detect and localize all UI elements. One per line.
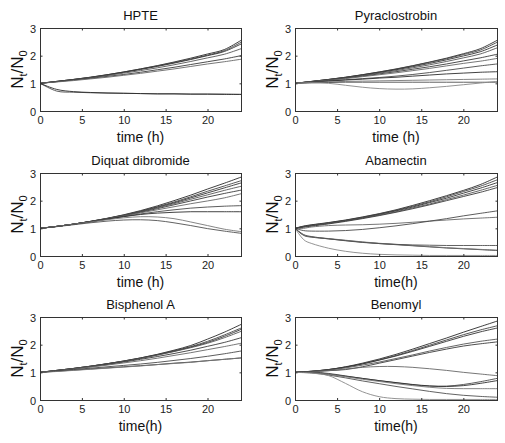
chart-panel-bisphenol-a: 051015200123Bisphenol Atime(h)Nt/N0	[8, 297, 242, 434]
data-line-c11	[295, 228, 497, 255]
data-line-c7	[40, 83, 241, 94]
y-tick-label: 2	[30, 339, 36, 351]
y-axis-label: Nt/N0	[8, 50, 29, 88]
y-axis-label: Nt/N0	[263, 50, 284, 88]
data-line-c1	[295, 321, 497, 372]
chart-panel-hpte: 051015200123HPTEtime (h)Nt/N0	[8, 8, 242, 145]
y-tick-label: 0	[30, 395, 36, 407]
figure-grid: 051015200123HPTEtime (h)Nt/N005101520012…	[0, 0, 505, 443]
data-line-c7	[295, 211, 497, 231]
y-axis-label: Nt/N0	[263, 195, 284, 233]
x-tick-label: 15	[160, 114, 172, 126]
y-tick-label: 2	[285, 339, 291, 351]
x-tick-label: 10	[118, 114, 130, 126]
y-axis-label: Nt/N0	[8, 339, 29, 377]
data-line-c4	[40, 186, 241, 228]
x-tick-label: 0	[292, 259, 298, 271]
data-line-c1	[295, 177, 497, 228]
x-tick-label: 20	[458, 403, 470, 415]
y-axis-label: Nt/N0	[263, 339, 284, 377]
x-tick-label: 0	[292, 403, 298, 415]
x-tick-label: 10	[118, 403, 130, 415]
data-line-c1	[40, 40, 241, 83]
chart-title: HPTE	[123, 8, 158, 23]
y-tick-label: 3	[30, 23, 36, 35]
axes-frame	[41, 29, 242, 112]
x-tick-label: 15	[416, 114, 428, 126]
data-line-c2	[295, 180, 497, 228]
chart-panel-diquat-dibromide: 051015200123Diquat dibromidetime (h)Nt/N…	[8, 153, 242, 290]
curves	[40, 324, 241, 372]
data-line-c1	[40, 177, 241, 228]
x-tick-label: 15	[160, 403, 172, 415]
x-axis-label: time(h)	[374, 418, 418, 434]
x-tick-label: 20	[202, 114, 214, 126]
curves	[295, 40, 497, 89]
x-axis-label: time (h)	[117, 274, 164, 290]
x-tick-label: 5	[79, 114, 85, 126]
chart-title: Pyraclostrobin	[355, 8, 437, 23]
x-tick-label: 5	[335, 403, 341, 415]
y-tick-label: 1	[30, 367, 36, 379]
data-line-c9	[295, 228, 497, 250]
y-tick-label: 1	[285, 78, 291, 90]
data-line-c5	[295, 342, 497, 372]
x-tick-label: 0	[37, 114, 43, 126]
y-tick-label: 3	[30, 312, 36, 324]
curves	[40, 177, 241, 233]
x-tick-label: 0	[292, 114, 298, 126]
x-tick-label: 5	[79, 259, 85, 271]
x-tick-label: 10	[374, 114, 386, 126]
y-tick-label: 1	[285, 367, 291, 379]
data-line-c5	[40, 338, 241, 373]
data-line-c2	[40, 42, 241, 83]
data-line-c5	[40, 190, 241, 228]
x-axis-label: time(h)	[119, 418, 163, 434]
x-tick-label: 5	[335, 114, 341, 126]
x-tick-label: 0	[37, 403, 43, 415]
x-tick-label: 20	[458, 259, 470, 271]
data-line-c10	[295, 372, 497, 397]
x-tick-label: 20	[458, 114, 470, 126]
x-tick-label: 15	[416, 259, 428, 271]
curves	[295, 321, 497, 399]
y-tick-label: 1	[30, 78, 36, 90]
chart-title: Bisphenol A	[106, 297, 175, 312]
axes-frame	[296, 318, 498, 401]
x-tick-label: 10	[374, 403, 386, 415]
y-axis-label: Nt/N0	[8, 195, 29, 233]
curves	[295, 177, 497, 255]
x-tick-label: 15	[416, 403, 428, 415]
chart-panel-abamectin: 051015200123Abamectintime(h)Nt/N0	[263, 153, 498, 290]
x-tick-label: 0	[37, 259, 43, 271]
chart-panel-benomyl: 051015200123Benomyltime(h)Nt/N0	[263, 297, 498, 434]
y-tick-label: 1	[30, 223, 36, 235]
x-axis-label: time(h)	[374, 274, 418, 290]
curves	[40, 40, 241, 94]
data-line-c2	[295, 326, 497, 372]
y-tick-label: 3	[285, 168, 291, 180]
x-axis-label: time (h)	[117, 129, 164, 145]
data-line-c8	[40, 83, 241, 94]
y-tick-label: 0	[285, 106, 291, 118]
y-tick-label: 2	[285, 195, 291, 207]
x-tick-label: 15	[160, 259, 172, 271]
y-tick-label: 2	[30, 195, 36, 207]
x-tick-label: 20	[202, 259, 214, 271]
x-tick-label: 10	[118, 259, 130, 271]
chart-panel-pyraclostrobin: 051015200123Pyraclostrobintime (h)Nt/N0	[263, 8, 498, 145]
data-line-c3	[295, 328, 497, 372]
y-tick-label: 0	[30, 106, 36, 118]
chart-title: Benomyl	[371, 297, 422, 312]
y-tick-label: 2	[285, 50, 291, 62]
y-tick-label: 3	[285, 23, 291, 35]
chart-title: Abamectin	[365, 153, 426, 168]
x-tick-label: 10	[374, 259, 386, 271]
data-line-c1	[40, 324, 241, 372]
y-tick-label: 2	[30, 50, 36, 62]
y-tick-label: 0	[30, 251, 36, 263]
x-tick-label: 5	[79, 403, 85, 415]
y-tick-label: 0	[285, 251, 291, 263]
y-tick-label: 3	[285, 312, 291, 324]
x-tick-label: 20	[202, 403, 214, 415]
